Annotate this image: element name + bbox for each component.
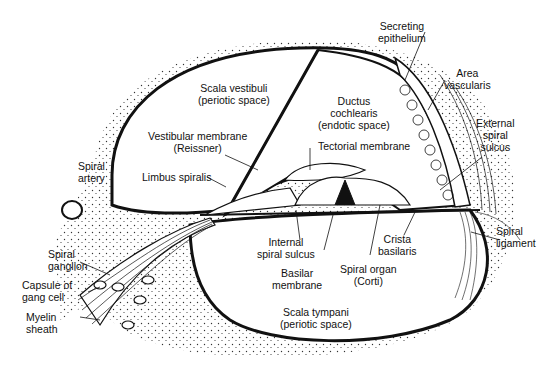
label-scala-vestibuli: Scala vestibuli (periotic space) <box>198 82 270 106</box>
label-spiral-organ: Spiral organ (Corti) <box>340 263 397 287</box>
spiral-artery-shape <box>62 201 82 219</box>
label-spiral-artery: Spiral artery <box>78 160 105 184</box>
label-internal-spiral-sulcus: Internal spiral sulcus <box>257 236 315 260</box>
label-limbus-spiralis: Limbus spiralis <box>142 171 211 183</box>
label-spiral-ligament: Spiral ligament <box>496 225 536 249</box>
label-area-vascularis: Area vascularis <box>444 67 491 91</box>
label-vestibular-membrane: Vestibular membrane (Reissner) <box>148 130 247 154</box>
label-myelin-sheath: Myelin sheath <box>26 311 58 335</box>
label-tectorial-membrane: Tectorial membrane <box>318 140 410 152</box>
label-spiral-ganglion: Spiral ganglion <box>48 248 88 272</box>
label-basilar-membrane: Basilar membrane <box>272 267 322 291</box>
label-secreting-epithelium: Secreting epithelium <box>378 20 426 44</box>
label-ductus-cochlearis: Ductus cochlearis (endotic space) <box>318 95 390 131</box>
label-scala-tympani: Scala tympani (periotic space) <box>280 306 352 330</box>
label-capsule-gang-cell: Capsule of gang cell <box>22 279 72 303</box>
cochlea-illustration <box>0 0 539 370</box>
label-crista-basilaris: Crista basilaris <box>378 233 417 257</box>
label-external-spiral-sulcus: External spiral sulcus <box>476 117 515 153</box>
cochlea-diagram: Scala vestibuli (periotic space) Ductus … <box>0 0 539 370</box>
